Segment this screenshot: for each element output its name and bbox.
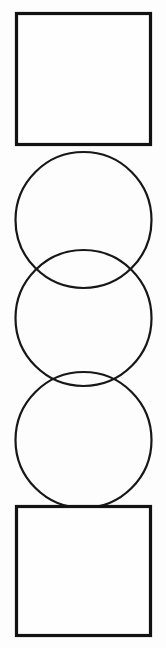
top-square xyxy=(17,14,151,145)
bottom-square xyxy=(17,507,151,636)
circle-upper xyxy=(16,152,152,288)
geometric-figure-svg xyxy=(0,0,166,648)
circle-middle xyxy=(16,250,152,386)
circle-lower xyxy=(16,372,152,508)
figure-canvas xyxy=(0,0,166,648)
